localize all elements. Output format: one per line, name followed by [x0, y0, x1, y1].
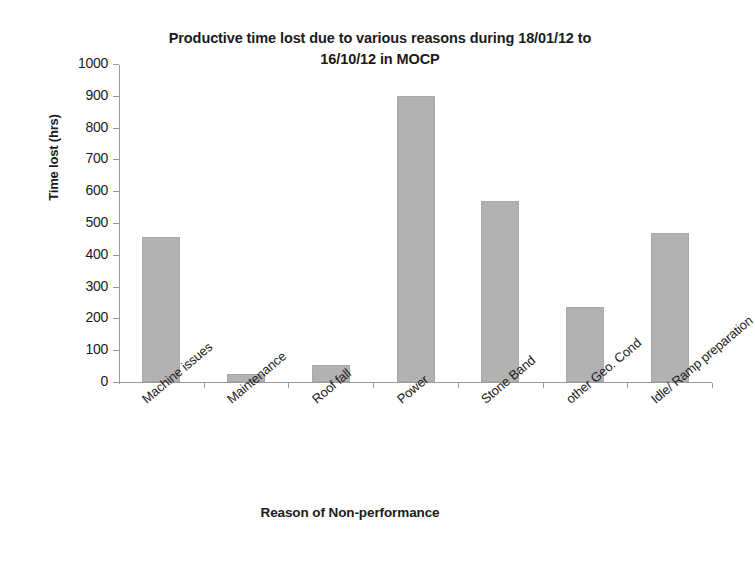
y-axis-tick: 200 — [113, 318, 119, 319]
bar — [481, 201, 519, 382]
y-axis-tick: 0 — [113, 382, 119, 383]
x-axis-tick — [458, 383, 459, 388]
y-axis-tick-label: 400 — [56, 246, 108, 262]
bar — [142, 237, 180, 382]
y-axis-tick-label: 100 — [56, 341, 108, 357]
y-axis-tick: 100 — [113, 350, 119, 351]
y-axis-tick: 700 — [113, 159, 119, 160]
x-axis-title: Reason of Non-performance — [0, 505, 700, 520]
plot-area: 10009008007006005004003002001000 — [119, 65, 712, 383]
y-axis-tick-label: 500 — [56, 214, 108, 230]
y-axis-tick-label: 0 — [56, 373, 108, 389]
y-axis-tick: 500 — [113, 223, 119, 224]
x-axis-tick — [288, 383, 289, 388]
y-axis-tick-label: 900 — [56, 87, 108, 103]
y-axis-tick: 300 — [113, 287, 119, 288]
y-axis-tick-label: 1000 — [56, 55, 108, 71]
y-axis-tick-label: 200 — [56, 309, 108, 325]
x-axis-tick — [204, 383, 205, 388]
chart-title: Productive time lost due to various reas… — [120, 28, 640, 69]
y-axis-tick: 900 — [113, 96, 119, 97]
bar — [651, 233, 689, 382]
bar — [397, 96, 435, 382]
x-axis-tick — [712, 383, 713, 388]
y-axis-tick-label: 800 — [56, 119, 108, 135]
x-axis-tick — [543, 383, 544, 388]
y-axis-tick: 1000 — [113, 64, 119, 65]
y-axis-tick: 600 — [113, 191, 119, 192]
y-axis-tick-label: 700 — [56, 150, 108, 166]
y-axis-tick: 400 — [113, 255, 119, 256]
y-axis-tick: 800 — [113, 128, 119, 129]
x-axis-tick — [373, 383, 374, 388]
x-axis-tick — [627, 383, 628, 388]
y-axis-line — [119, 65, 120, 384]
y-axis-tick-label: 300 — [56, 278, 108, 294]
y-axis-tick-label: 600 — [56, 182, 108, 198]
